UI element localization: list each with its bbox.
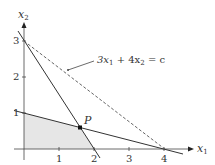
y-tick-3: 3: [13, 35, 19, 46]
leader-dot: [67, 69, 69, 71]
point-label: P: [83, 114, 92, 127]
y-axis-label: x2: [18, 8, 29, 22]
x-axis-arrow-icon: [188, 147, 194, 152]
x-tick-3: 3: [126, 153, 132, 164]
x-tick-1: 1: [56, 153, 62, 164]
label-leader: [68, 61, 94, 70]
y-tick-2: 2: [13, 71, 19, 82]
y-tick-1: 1: [13, 107, 19, 118]
optimal-point-marker: [78, 126, 82, 130]
lp-diagram: P 1 2 3 4 1 2 3 x1 x2 3x1 + 4x2 = c: [0, 0, 215, 165]
objective-label: 3x1 + 4x2 = c: [97, 54, 165, 67]
x-axis-label: x1: [197, 142, 208, 156]
x-tick-4: 4: [161, 153, 167, 164]
x-tick-2: 2: [91, 153, 97, 164]
y-axis-arrow-icon: [22, 22, 27, 28]
